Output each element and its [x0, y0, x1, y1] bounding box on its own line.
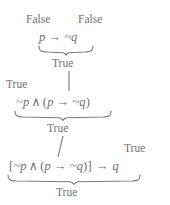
result-level-3: True	[56, 186, 77, 199]
brace-level-3	[7, 174, 141, 185]
connector-level-1-to-2	[66, 71, 72, 91]
brace-level-1	[38, 45, 94, 56]
expr1-implication-icon: →	[45, 30, 64, 44]
label-notq-false: False	[78, 13, 102, 26]
result-level-1: True	[52, 57, 73, 70]
expr2-operand-notp: ~p	[16, 95, 29, 109]
expr3-inner-notq: ~q	[70, 159, 83, 173]
expr2-conjunction-icon: ∧	[29, 95, 42, 109]
label-p-false: False	[26, 13, 50, 26]
expr3-operand-q: q	[113, 159, 119, 173]
expr1-operand-notq: ~q	[64, 30, 77, 44]
expr3-conjunction-icon: ∧	[27, 159, 40, 173]
connector-level-2-to-3	[56, 136, 66, 157]
expr2-close-paren: )	[86, 95, 90, 109]
result-level-2: True	[47, 122, 68, 135]
expr3-operand-notp: ~p	[13, 159, 26, 173]
expression-level-2: ~p∧(p→~q)	[16, 95, 90, 109]
expression-level-3: [~p∧(p→~q)]→q	[9, 159, 119, 173]
label-implication-true: True	[124, 142, 145, 155]
expr3-main-implication-icon: →	[92, 159, 113, 173]
label-notp-true: True	[6, 78, 27, 91]
expr2-inner-p: p	[47, 95, 53, 109]
expr3-inner-implication-icon: →	[51, 159, 70, 173]
truth-value-diagram: False False p→~q True True ~p∧(p→~q) Tru…	[0, 0, 170, 205]
expr2-inner-implication-icon: →	[54, 95, 73, 109]
expr2-inner-notq: ~q	[72, 95, 85, 109]
expression-level-1: p→~q	[39, 30, 78, 44]
brace-level-2	[14, 110, 112, 121]
